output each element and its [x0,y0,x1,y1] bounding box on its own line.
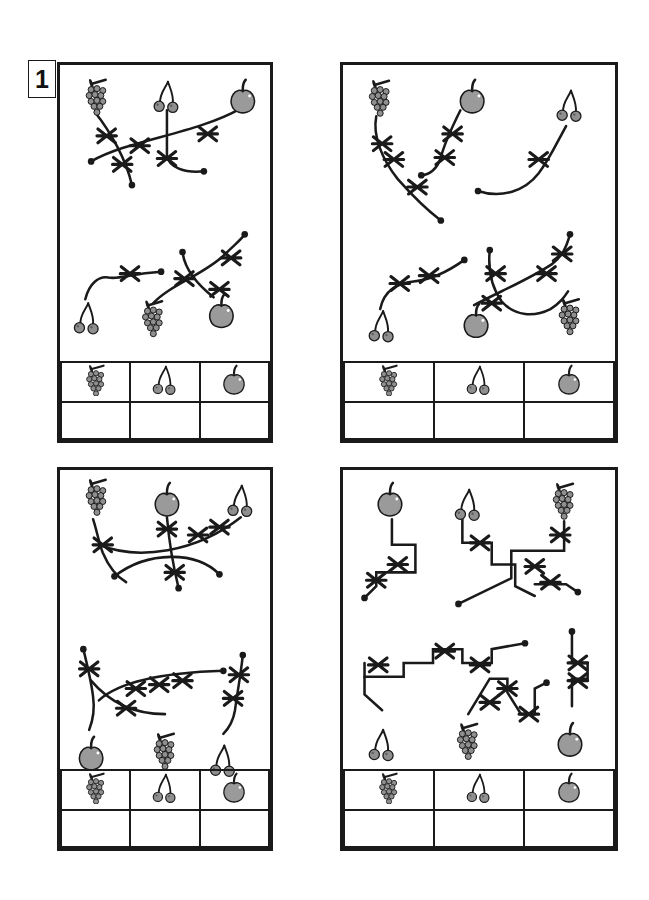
table-row [61,770,269,810]
cherries-icon [458,364,500,396]
apple-icon [548,772,590,804]
answer-header-grapes [344,362,434,402]
answer-header-apple [524,770,614,810]
apple-icon [213,772,255,804]
answer-header-cherries [130,770,199,810]
answer-header-cherries [130,362,199,402]
grapes-icon [75,772,117,804]
table-row [344,770,614,810]
table-row [61,402,269,439]
answer-cell-grapes[interactable] [61,810,130,847]
answer-cell-apple[interactable] [524,810,614,847]
answer-cell-cherries[interactable] [130,402,199,439]
answer-cell-grapes[interactable] [344,402,434,439]
cherries-icon [458,772,500,804]
worksheet-page: 1 [0,0,649,900]
answer-cell-apple[interactable] [524,402,614,439]
answer-cell-grapes[interactable] [61,402,130,439]
answer-header-cherries [434,362,524,402]
answer-table-bottom-right [343,769,615,848]
panel-bottom-right [340,467,618,851]
answer-table-bottom-left [60,769,270,848]
answer-header-apple [200,362,269,402]
grapes-icon [368,364,410,396]
cherries-icon [144,364,186,396]
answer-cell-apple[interactable] [200,810,269,847]
answer-cell-apple[interactable] [200,402,269,439]
table-row [344,810,614,847]
table-row [344,362,614,402]
answer-header-grapes [61,362,130,402]
table-row [344,402,614,439]
grapes-icon [368,772,410,804]
answer-header-apple [200,770,269,810]
answer-cell-cherries[interactable] [434,810,524,847]
answer-table-top-left [60,361,270,440]
apple-icon [213,364,255,396]
table-row [61,362,269,402]
answer-header-apple [524,362,614,402]
table-row [61,810,269,847]
exercise-number-badge: 1 [28,60,56,98]
grapes-icon [75,364,117,396]
apple-icon [548,364,590,396]
panel-top-left [57,62,273,443]
answer-cell-grapes[interactable] [344,810,434,847]
panel-top-right [340,62,618,443]
answer-cell-cherries[interactable] [130,810,199,847]
answer-header-grapes [344,770,434,810]
answer-cell-cherries[interactable] [434,402,524,439]
answer-header-grapes [61,770,130,810]
panel-bottom-left [57,467,273,851]
answer-table-top-right [343,361,615,440]
cherries-icon [144,772,186,804]
answer-header-cherries [434,770,524,810]
